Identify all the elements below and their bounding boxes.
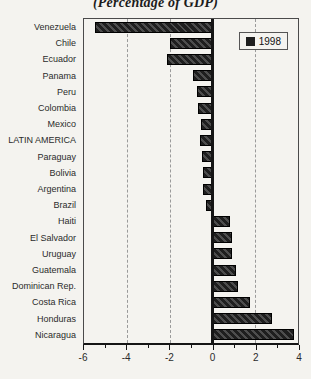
legend-swatch-icon	[246, 37, 255, 46]
category-label-argentina: Argentina	[37, 181, 76, 197]
x-axis: -6-4-2024	[83, 345, 299, 375]
x-tick-label-4: 4	[296, 352, 302, 363]
bar-ecuador	[167, 54, 212, 65]
x-major-tick--6	[83, 345, 84, 350]
category-label-chile: Chile	[55, 35, 76, 51]
plot-area: 1998	[83, 18, 299, 345]
category-label-dominican-rep: Dominican Rep.	[12, 278, 76, 294]
bar-venezuela	[95, 22, 213, 33]
x-tick-label--6: -6	[79, 352, 88, 363]
category-label-panama: Panama	[42, 68, 76, 84]
x-minor-tick-1	[234, 345, 235, 348]
category-label-venezuela: Venezuela	[34, 19, 76, 35]
bar-nicaragua	[212, 329, 293, 340]
x-major-tick--4	[126, 345, 127, 350]
bar-haiti	[212, 216, 229, 227]
chart-page: (Percentage of GDP) VenezuelaChileEcuado…	[0, 0, 311, 379]
chart-title: (Percentage of GDP)	[0, 0, 311, 11]
gridline-x-2	[255, 19, 256, 343]
category-label-costa-rica: Costa Rica	[32, 294, 76, 310]
x-minor-tick--5	[105, 345, 106, 348]
bar-el-salvador	[212, 232, 231, 243]
x-major-tick--2	[169, 345, 170, 350]
category-label-latin-america: LATIN AMERICA	[8, 132, 76, 148]
category-label-nicaragua: Nicaragua	[35, 327, 76, 343]
category-label-peru: Peru	[57, 84, 76, 100]
gridline-x--2	[170, 19, 171, 343]
x-major-tick-4	[299, 345, 300, 350]
category-label-honduras: Honduras	[37, 311, 76, 327]
category-label-el-salvador: El Salvador	[30, 230, 76, 246]
legend-label: 1998	[259, 36, 281, 47]
x-minor-tick--3	[148, 345, 149, 348]
bar-panama	[193, 70, 212, 81]
category-label-colombia: Colombia	[38, 100, 76, 116]
x-tick-label-0: 0	[210, 352, 216, 363]
x-major-tick-2	[256, 345, 257, 350]
category-label-haiti: Haiti	[58, 213, 76, 229]
bar-dominican-rep	[212, 281, 238, 292]
x-minor-tick-3	[277, 345, 278, 348]
category-label-bolivia: Bolivia	[49, 165, 76, 181]
bar-guatemala	[212, 265, 236, 276]
x-tick-label--4: -4	[122, 352, 131, 363]
x-tick-label--2: -2	[165, 352, 174, 363]
x-minor-tick--1	[191, 345, 192, 348]
x-tick-label-2: 2	[253, 352, 259, 363]
category-label-ecuador: Ecuador	[42, 51, 76, 67]
x-major-tick-0	[213, 345, 214, 350]
zero-axis-line	[211, 19, 214, 343]
legend: 1998	[239, 32, 288, 50]
category-label-uruguay: Uruguay	[42, 246, 76, 262]
category-labels-column: VenezuelaChileEcuadorPanamaPeruColombiaM…	[0, 19, 80, 343]
bar-chile	[170, 38, 213, 49]
category-label-guatemala: Guatemala	[32, 262, 76, 278]
category-label-paraguay: Paraguay	[37, 149, 76, 165]
bar-costa-rica	[212, 297, 249, 308]
category-label-brazil: Brazil	[53, 197, 76, 213]
gridline-x--4	[127, 19, 128, 343]
bar-honduras	[212, 313, 272, 324]
bar-uruguay	[212, 248, 231, 259]
category-label-mexico: Mexico	[47, 116, 76, 132]
